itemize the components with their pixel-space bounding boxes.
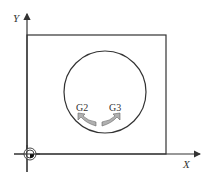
origin-symbol-icon: [14, 145, 40, 172]
g3-label: G3: [109, 102, 121, 113]
y-axis-label: Y: [13, 12, 21, 24]
g3-arrow-icon: [102, 113, 120, 126]
circle-path: [64, 51, 146, 133]
workpiece-rect: [27, 35, 166, 154]
g2-arrow-icon: [78, 113, 96, 126]
g2-label: G2: [76, 102, 88, 113]
g2-g3-diagram: Y X G2 G3: [0, 0, 210, 181]
x-axis-label: X: [182, 158, 191, 170]
